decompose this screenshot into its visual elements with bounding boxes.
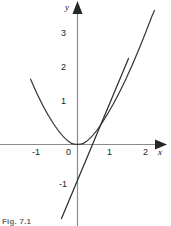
x-tick-label-neg1: -1 (32, 148, 40, 157)
x-tick-label-2: 2 (143, 148, 148, 157)
y-tick-label-2: 2 (61, 63, 66, 72)
figure-caption: Fig. 7.1 (2, 218, 31, 226)
graph-plot (0, 0, 171, 226)
y-tick-label-neg1: -1 (59, 180, 67, 189)
parabola-curve (31, 11, 155, 145)
tangent-line (62, 59, 129, 219)
y-tick-label-1: 1 (61, 97, 66, 106)
x-tick-label-1: 1 (107, 148, 112, 157)
y-axis-arrow-icon (73, 1, 83, 14)
y-tick-label-3: 3 (61, 29, 66, 38)
y-axis-label: y (65, 3, 69, 12)
x-tick-label-0: 0 (66, 148, 71, 157)
x-axis-label: x (158, 148, 162, 157)
figure-container: -1 0 1 2 3 2 1 -1 y x Fig. 7.1 (0, 0, 171, 226)
